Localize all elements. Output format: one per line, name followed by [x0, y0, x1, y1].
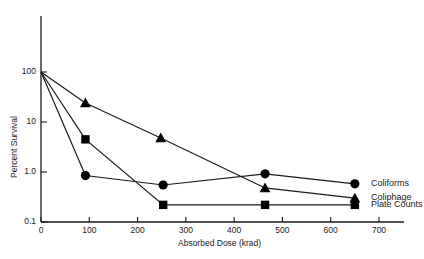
series-markers — [81, 135, 359, 209]
axes-layer — [41, 16, 404, 222]
x-tick-label: 0 — [21, 226, 61, 235]
y-tick-label: 0.1 — [0, 217, 36, 226]
series-layer — [41, 72, 360, 209]
x-tick-label: 600 — [311, 226, 351, 235]
y-tick-label: 10 — [0, 117, 36, 126]
plot-canvas: Percent Survival — [0, 0, 424, 259]
series-markers — [80, 98, 360, 203]
ticks-layer — [41, 72, 379, 222]
x-tick-label: 300 — [166, 226, 206, 235]
y-tick-label: 100 — [0, 67, 36, 76]
x-tick-label: 400 — [214, 226, 254, 235]
x-tick-label: 700 — [359, 226, 399, 235]
legend-label-coliforms: Coliforms — [371, 179, 409, 188]
chart-figure: Percent Survival 0.11.010100010020030040… — [0, 0, 424, 259]
x-tick-label: 500 — [262, 226, 302, 235]
y-tick-label: 1.0 — [0, 167, 36, 176]
legend-label-plate-counts: Plate Counts — [371, 200, 423, 209]
x-axis-title: Absorbed Dose (krad) — [178, 239, 261, 248]
x-tick-label: 100 — [69, 226, 109, 235]
x-tick-label: 200 — [118, 226, 158, 235]
